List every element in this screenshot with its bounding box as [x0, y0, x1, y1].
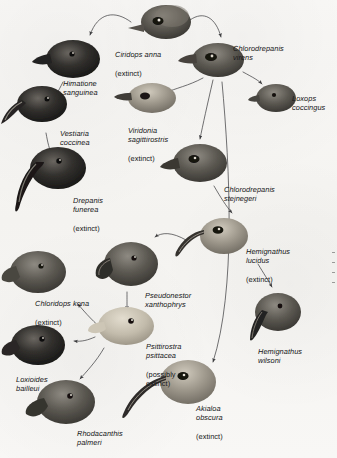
label-chlorodrepanis-virens: Chlorodrepanis virens — [233, 35, 303, 63]
label-chlorodrepanis-stejnegeri: Chlorodrepanis stejnegeri — [224, 176, 290, 204]
label-akialoa-obscura: Akialoa obscura (extinct) — [196, 395, 244, 441]
taxon-status-akialoa-obscura: (extinct) — [196, 432, 223, 441]
label-chloridops-kona: Chloridops kona (extinct) — [35, 290, 91, 327]
label-ciridops-anna: Ciridops anna (extinct) — [115, 41, 161, 78]
label-loxioides-bailleui: Loxioides bailleui — [16, 366, 66, 394]
label-viridonia-sagittirostris: Viridonia sagittirostris (extinct) — [128, 117, 186, 163]
taxon-name-loxops-coccingus: Loxops coccingus — [292, 94, 325, 112]
taxon-name-hemignathus-wilsoni: Hemignathus wilsoni — [258, 347, 302, 365]
taxon-name-chlorodrepanis-stejnegeri: Chlorodrepanis stejnegeri — [224, 185, 275, 203]
label-drepanis-funerea: Drepanis funerea (extinct) — [73, 187, 125, 233]
taxon-name-drepanis-funerea: Drepanis funerea — [73, 196, 103, 214]
label-himatione-sanguinea: Himatione sanguinea — [63, 70, 119, 98]
arrow-virens-to-stejnegeri — [200, 80, 213, 139]
bird-loxops-coccingus — [248, 84, 296, 112]
taxon-name-himatione-sanguinea: Himatione sanguinea — [63, 79, 98, 97]
bird-hemignathus-wilsoni — [250, 293, 301, 340]
label-pseudonestor-xanthophrys: Pseudonestor xanthophrys — [145, 282, 207, 310]
taxon-name-ciridops-anna: Ciridops anna — [115, 50, 161, 59]
arrow-virens-to-loxops — [243, 72, 262, 84]
taxon-status-psittirostra-psittacea: (possibly extinct) — [146, 370, 176, 388]
arrow-lucidus-to-pseudonestor — [155, 234, 186, 240]
bird-viridonia-sagittirostris — [114, 83, 176, 113]
arrow-psittirostra-to-loxioides — [74, 337, 95, 341]
taxon-status-hemignathus-lucidus: (extinct) — [246, 275, 273, 284]
taxon-name-viridonia-sagittirostris: Viridonia sagittirostris — [128, 126, 168, 144]
taxon-status-drepanis-funerea: (extinct) — [73, 224, 100, 233]
bird-chloridops-kona — [2, 251, 66, 293]
bird-loxioides-bailleui — [2, 325, 65, 365]
honeycreeper-phylogeny-figure: Ciridops anna (extinct) Chlorodrepanis v… — [0, 0, 337, 458]
taxon-status-ciridops-anna: (extinct) — [115, 69, 142, 78]
taxon-name-hemignathus-lucidus: Hemignathus lucidus — [246, 247, 290, 265]
taxon-name-vestiaria-coccinea: Vestiaria coccinea — [60, 129, 90, 147]
bird-psittirostra-psittacea — [88, 307, 154, 345]
taxon-name-akialoa-obscura: Akialoa obscura — [196, 404, 223, 422]
bird-vestiaria-coccinea — [1, 86, 67, 124]
taxon-name-chlorodrepanis-virens: Chlorodrepanis virens — [233, 44, 284, 62]
arrow-ciridops-to-chlorodrepanis-virens — [190, 16, 221, 37]
arrow-ciridops-to-himatione — [90, 15, 131, 35]
label-rhodacanthis-palmeri: Rhodacanthis palmeri (extinct) — [77, 420, 133, 458]
bird-ciridops-anna — [128, 5, 191, 39]
taxon-status-viridonia-sagittirostris: (extinct) — [128, 154, 155, 163]
taxon-name-loxioides-bailleui: Loxioides bailleui — [16, 375, 48, 393]
taxon-name-psittirostra-psittacea: Psittirostra psittacea — [146, 342, 182, 360]
label-hemignathus-wilsoni: Hemignathus wilsoni — [258, 338, 314, 366]
label-vestiaria-coccinea: Vestiaria coccinea — [60, 120, 108, 148]
arrow-psittirostra-to-rhodacanthis — [80, 348, 104, 379]
label-hemignathus-lucidus: Hemignathus lucidus (extinct) — [246, 238, 304, 284]
bird-hemignathus-lucidus — [175, 218, 248, 257]
bird-pseudonestor-xanthophrys — [96, 242, 158, 286]
label-loxops-coccingus: Loxops coccingus — [292, 85, 337, 113]
taxon-name-pseudonestor-xanthophrys: Pseudonestor xanthophrys — [145, 291, 191, 309]
taxon-name-rhodacanthis-palmeri: Rhodacanthis palmeri — [77, 429, 123, 447]
page-edge-marks — [332, 252, 336, 296]
label-psittirostra-psittacea: Psittirostra psittacea (possibly extinct… — [146, 333, 194, 388]
taxon-name-chloridops-kona: Chloridops kona — [35, 299, 89, 308]
taxon-status-chloridops-kona: (extinct) — [35, 318, 62, 327]
